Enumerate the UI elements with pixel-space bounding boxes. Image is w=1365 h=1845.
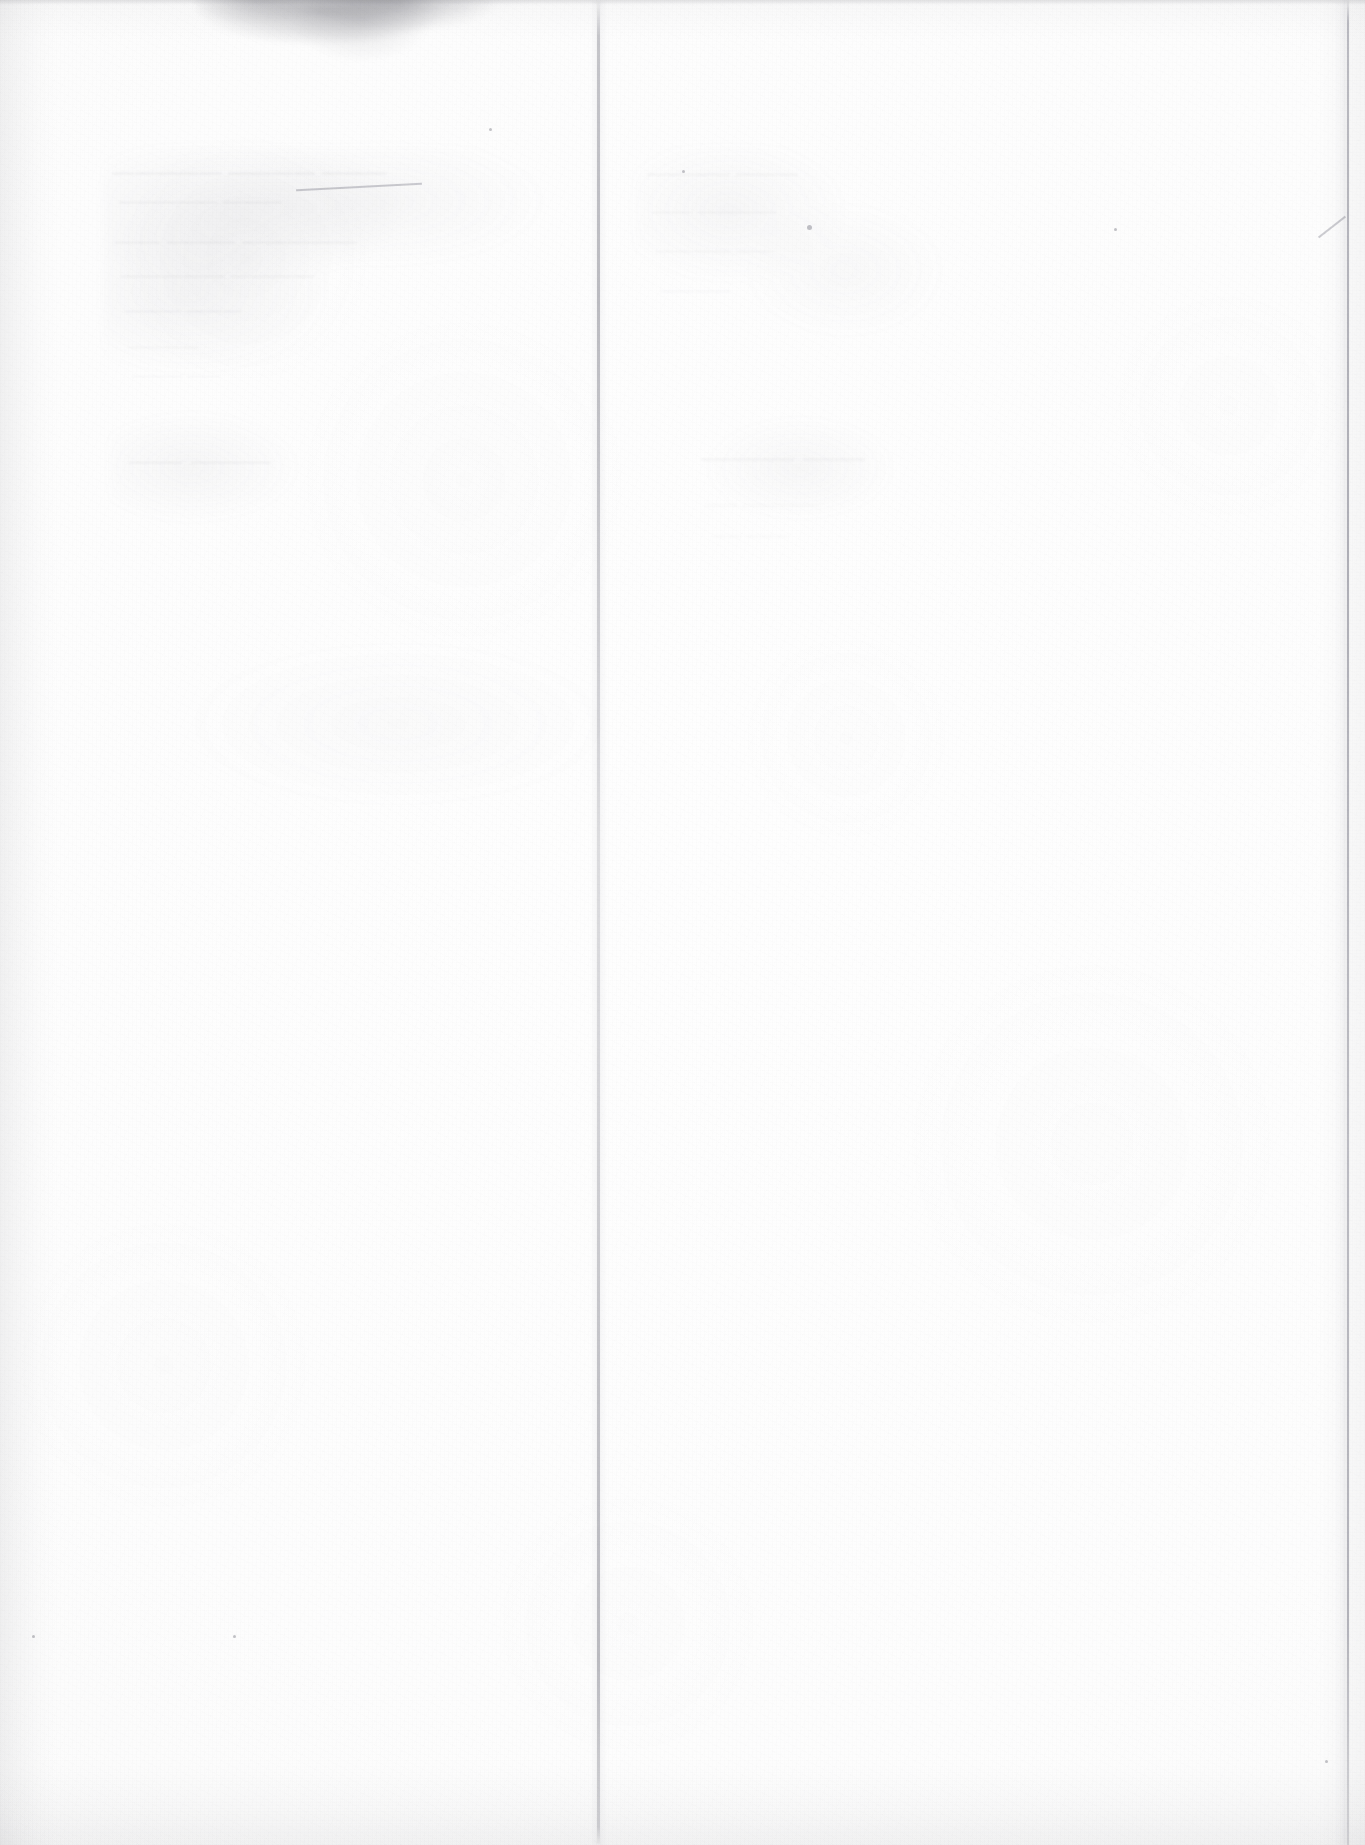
bottom-edge-shading: [0, 1765, 1365, 1845]
showthrough-line-left-7: ——— ——: [128, 446, 271, 476]
speck-top-right: [1114, 228, 1117, 231]
scanned-page: ——— ———— ———————— —————————— ——— —————— …: [0, 0, 1365, 1845]
showthrough-line-left-5: ————: [128, 336, 199, 356]
showthrough-line-left-0: ——— ———— —————: [112, 160, 386, 185]
top-edge-smudge: [196, 0, 496, 62]
speck-lower-left: [233, 1635, 236, 1638]
speck-upper-centre: [807, 225, 812, 230]
showthrough-line-right-6: ——— ——: [712, 528, 789, 544]
showthrough-line-right-2: —— ————: [656, 240, 774, 261]
showthrough-line-right-1: ———— ——: [652, 200, 776, 222]
showthrough-line-left-2: ————— ——— ——: [114, 228, 356, 254]
showthrough-line-left-4: ——— ———: [124, 300, 242, 321]
speck-mid-right: [682, 170, 685, 173]
speck-mid-left: [489, 128, 492, 131]
left-edge-shading: [0, 0, 56, 1845]
bleed-wash-centre-low: [150, 620, 770, 880]
showthrough-line-left-1: ——— —————: [118, 190, 282, 212]
showthrough-line-right-5: ————— ——: [706, 496, 820, 513]
showthrough-line-left-3: ———— —————: [120, 264, 313, 287]
showthrough-line-right-0: ——— ————: [646, 162, 797, 185]
centre-fold-crease: [597, 0, 600, 1845]
showthrough-line-right-4: —— ———: [700, 440, 865, 474]
showthrough-line-left-6: —— ———: [132, 366, 220, 384]
page-number-label: [0, 0, 1, 1]
right-page-edge: [1347, 0, 1349, 1845]
showthrough-line-right-3: ————: [660, 280, 731, 300]
bleed-wash-mid-left: [110, 400, 450, 560]
